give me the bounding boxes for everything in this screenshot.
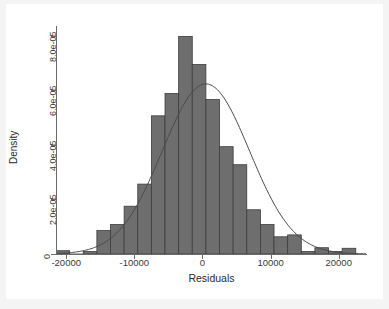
plot-region [56, 26, 366, 254]
histogram-bar [179, 36, 193, 254]
y-tick-label: 8.0e-05 [48, 31, 58, 62]
histogram-bar [111, 225, 125, 254]
y-axis-title: Density [8, 131, 19, 164]
y-tick-label: 4.0e-05 [48, 140, 58, 171]
x-axis-title: Residuals [56, 272, 367, 284]
plot-inner-frame: 02.0e-054.0e-056.0e-058.0e-05 -20000-100… [6, 4, 383, 299]
histogram-bar [260, 225, 274, 254]
histogram-bar [206, 99, 220, 254]
histogram-bar [138, 184, 152, 254]
histogram-bar [233, 165, 247, 254]
x-tick-label: -20000 [36, 257, 96, 268]
histogram-bar [220, 147, 234, 254]
x-tick-label: 0 [172, 257, 232, 268]
histogram-bar [124, 206, 138, 254]
x-axis-line [56, 254, 367, 255]
x-tick-label: 20000 [309, 257, 369, 268]
histogram-bar [247, 210, 261, 254]
x-tick-label: 10000 [241, 257, 301, 268]
histogram-bar [192, 65, 206, 255]
x-tick-label: -10000 [104, 257, 164, 268]
histogram-bar [97, 231, 111, 254]
figure-canvas: 02.0e-054.0e-056.0e-058.0e-05 -20000-100… [0, 0, 389, 309]
y-tick-label: 2.0e-05 [48, 195, 58, 226]
y-tick-label: 6.0e-05 [48, 86, 58, 117]
histogram-bar [288, 235, 302, 254]
histogram-svg [56, 26, 366, 254]
histogram-bars [56, 36, 356, 254]
histogram-bar [274, 237, 288, 254]
histogram-bar [151, 116, 165, 254]
